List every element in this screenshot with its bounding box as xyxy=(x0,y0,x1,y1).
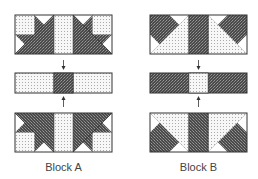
arrow-down-icon xyxy=(62,60,66,70)
block-b-label: Block B xyxy=(150,161,247,173)
block-b-middle-row xyxy=(150,73,247,93)
block-a-bottom-row xyxy=(15,113,112,152)
block-a-top-row xyxy=(15,15,112,54)
block-b-bottom-row xyxy=(150,113,247,152)
quilt-blocks-diagram xyxy=(0,0,258,179)
block-a-middle-row xyxy=(15,73,112,93)
arrow-up-icon xyxy=(62,96,66,107)
block-b-top-row xyxy=(150,15,247,54)
block-a-label: Block A xyxy=(15,161,112,173)
block-b xyxy=(150,15,247,152)
arrow-down-icon xyxy=(197,60,201,70)
block-a xyxy=(15,15,112,152)
arrow-up-icon xyxy=(197,96,201,107)
